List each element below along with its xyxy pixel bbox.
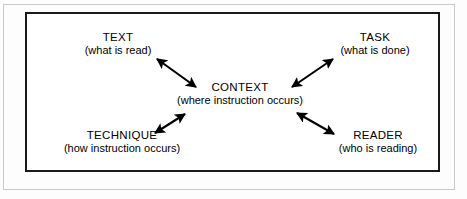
- node-technique-subtitle: (how instruction occurs): [64, 142, 180, 155]
- node-task-title: TASK: [340, 31, 409, 44]
- node-text-subtitle: (what is read): [85, 44, 152, 57]
- node-context-title: CONTEXT: [177, 81, 303, 94]
- node-text-title: TEXT: [85, 31, 152, 44]
- node-text: TEXT (what is read): [85, 31, 152, 57]
- node-task-subtitle: (what is done): [340, 44, 409, 57]
- connector-context-reader: [297, 113, 334, 134]
- figure-root: TEXT (what is read) TASK (what is done) …: [0, 0, 467, 199]
- node-task: TASK (what is done): [340, 31, 409, 57]
- node-technique: TECHNIQUE (how instruction occurs): [64, 129, 180, 155]
- node-technique-title: TECHNIQUE: [64, 129, 180, 142]
- node-context-subtitle: (where instruction occurs): [177, 94, 303, 107]
- node-context: CONTEXT (where instruction occurs): [177, 81, 303, 107]
- node-reader: READER (who is reading): [339, 129, 417, 155]
- node-reader-title: READER: [339, 129, 417, 142]
- node-reader-subtitle: (who is reading): [339, 142, 417, 155]
